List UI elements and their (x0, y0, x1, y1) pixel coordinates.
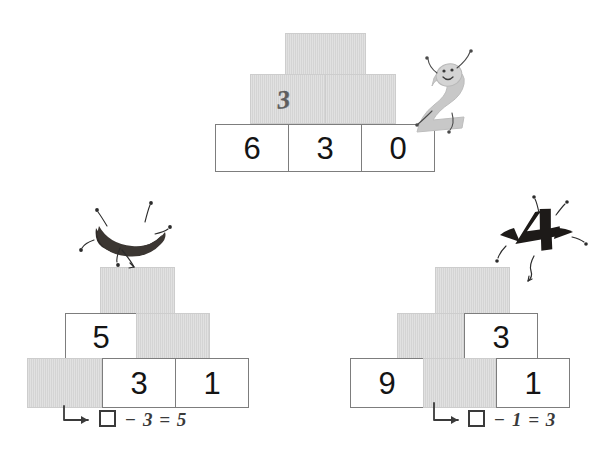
mascot-smile (443, 77, 453, 80)
pyramid-br-tier2-cell2[interactable]: 3 (464, 313, 538, 361)
unknown-box-icon (99, 410, 116, 427)
pyramid-bl-tier3-cell1[interactable] (27, 358, 103, 408)
pyramid-br-tier3-cell1[interactable]: 9 (350, 358, 424, 408)
pyramid-bl-tier3-cell3[interactable]: 1 (175, 358, 249, 408)
worksheet-canvas: 3 6 3 0 5 3 1 − 3 = 5 (0, 0, 609, 458)
equation-arrow-left (64, 406, 88, 424)
equation-bottom-left: − 3 = 5 (99, 409, 187, 431)
pyramid-bl-tier2-cell2[interactable] (136, 313, 210, 361)
pyramid-top-tier3-cell2[interactable]: 3 (288, 124, 362, 172)
dark-crescent-mascot (79, 201, 172, 268)
equation-text: − 1 = 3 (488, 409, 556, 430)
cell-value: 3 (492, 322, 509, 353)
pyramid-top-tier3-cell3[interactable]: 0 (361, 124, 435, 172)
cell-value: 5 (92, 322, 109, 353)
cell-value: 6 (243, 133, 260, 164)
pyramid-top-tier1-cell1[interactable] (285, 33, 366, 75)
mascot-eye-right (450, 68, 453, 71)
pyramid-br-tier2-cell1[interactable] (397, 313, 473, 361)
cell-value: 9 (378, 368, 395, 399)
cell-value: 3 (130, 368, 147, 399)
pyramid-top-tier3-cell1[interactable]: 6 (215, 124, 289, 172)
pyramid-br-tier3-cell3[interactable]: 1 (496, 358, 570, 408)
cell-value: 1 (203, 368, 220, 399)
pyramid-bl-tier1-cell1[interactable] (100, 267, 175, 317)
equation-text: − 3 = 5 (119, 409, 187, 430)
cell-value: 1 (524, 368, 541, 399)
cell-value: 3 (316, 133, 333, 164)
pyramid-br-tier3-cell2[interactable] (423, 358, 497, 408)
cell-value: 0 (389, 133, 406, 164)
pyramid-br-tier1-cell1[interactable] (435, 267, 510, 317)
unknown-box-icon (468, 410, 485, 427)
mascot-eye-left (442, 69, 445, 72)
digit-two-mascot (415, 49, 473, 134)
pyramid-bl-tier3-cell2[interactable]: 3 (102, 358, 176, 408)
pyramid-bl-tier2-cell1[interactable]: 5 (65, 313, 137, 361)
equation-bottom-right: − 1 = 3 (468, 409, 556, 431)
pyramid-top-tier2-cell2[interactable] (325, 74, 396, 124)
